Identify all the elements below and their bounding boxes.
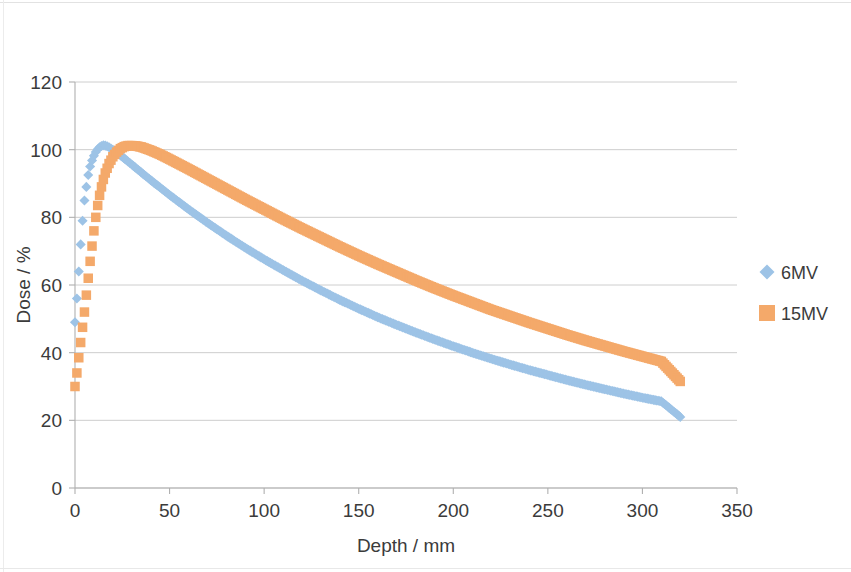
- x-tick-label-50: 50: [159, 500, 180, 521]
- marker-diamond: [76, 239, 86, 249]
- y-axis-tick-group: [69, 82, 75, 488]
- chart-legend: 6MV15MV: [759, 263, 828, 324]
- data-series-layer: [70, 140, 685, 422]
- series-6mv: [70, 140, 685, 422]
- x-tick-label-300: 300: [627, 500, 659, 521]
- series-15mv: [70, 141, 685, 391]
- legend-label: 15MV: [781, 304, 828, 324]
- marker-diamond: [72, 293, 82, 303]
- x-axis-tick-group: [75, 488, 737, 494]
- y-tick-label-100: 100: [30, 140, 62, 161]
- marker-square: [89, 226, 99, 236]
- marker-square: [72, 368, 82, 378]
- y-tick-label-120: 120: [30, 72, 62, 93]
- marker-diamond: [79, 195, 89, 205]
- y-tick-label-60: 60: [41, 275, 62, 296]
- y-tick-label-0: 0: [51, 478, 62, 499]
- x-tick-label-350: 350: [721, 500, 753, 521]
- marker-square: [80, 307, 90, 317]
- x-tick-label-150: 150: [343, 500, 375, 521]
- marker-square: [87, 241, 97, 251]
- legend-item-15mv[interactable]: 15MV: [759, 304, 828, 324]
- marker-square: [91, 213, 101, 223]
- x-axis-tick-labels: 050100150200250300350: [70, 500, 753, 521]
- marker-square: [70, 382, 80, 392]
- marker-square: [676, 377, 686, 387]
- marker-square: [74, 353, 84, 363]
- gridline-group: [75, 82, 737, 488]
- x-axis-title: Depth / mm: [357, 535, 455, 556]
- marker-square: [78, 323, 88, 333]
- legend-swatch-square: [759, 305, 775, 321]
- x-tick-label-100: 100: [248, 500, 280, 521]
- y-tick-label-20: 20: [41, 410, 62, 431]
- marker-square: [95, 191, 105, 201]
- depth-dose-plot: 020406080100120 050100150200250300350 6M…: [0, 0, 851, 572]
- y-axis-title: Dose / %: [13, 246, 34, 323]
- chart-container: 020406080100120 050100150200250300350 6M…: [0, 0, 851, 572]
- marker-square: [93, 201, 103, 211]
- marker-square: [85, 257, 95, 267]
- marker-diamond: [81, 182, 91, 192]
- marker-square: [76, 338, 86, 348]
- y-axis-tick-labels: 020406080100120: [30, 72, 62, 499]
- x-tick-label-200: 200: [437, 500, 469, 521]
- x-tick-label-250: 250: [532, 500, 564, 521]
- y-tick-label-80: 80: [41, 207, 62, 228]
- legend-swatch-diamond: [760, 265, 775, 280]
- legend-item-6mv[interactable]: 6MV: [760, 263, 819, 283]
- x-tick-label-0: 0: [70, 500, 81, 521]
- marker-diamond: [83, 170, 93, 180]
- legend-label: 6MV: [781, 263, 818, 283]
- marker-square: [83, 273, 93, 283]
- y-tick-label-40: 40: [41, 343, 62, 364]
- marker-square: [82, 290, 92, 300]
